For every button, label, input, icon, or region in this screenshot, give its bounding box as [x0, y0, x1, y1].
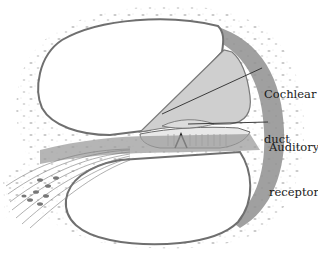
cochlea-diagram: Cochlear duct Auditory receptors — [0, 0, 318, 253]
label-cochlear-duct-line1: Cochlear — [264, 87, 316, 102]
label-auditory-receptors-line2: receptors — [269, 185, 318, 200]
label-auditory-receptors: Auditory receptors — [269, 110, 318, 230]
label-auditory-receptors-line1: Auditory — [269, 140, 318, 155]
